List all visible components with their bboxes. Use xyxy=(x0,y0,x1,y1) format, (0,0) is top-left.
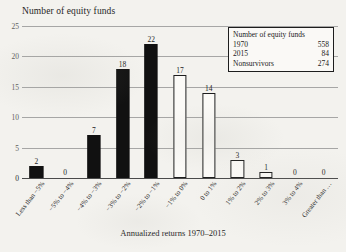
bar-value-label: 18 xyxy=(119,60,127,69)
x-axis-label: −2% to −1% xyxy=(133,180,161,213)
bar-slot: 14 xyxy=(194,26,223,178)
x-axis-title: Annualized returns 1970–2015 xyxy=(0,228,346,238)
bar-slot: 18 xyxy=(108,26,137,178)
bar[interactable]: 22 xyxy=(145,44,158,178)
bar-value-label: 3 xyxy=(236,151,240,160)
legend-row-value: 558 xyxy=(318,40,329,49)
y-tick-label: 25 xyxy=(12,22,20,31)
bar-slot: 22 xyxy=(137,26,166,178)
bar-slot: 17 xyxy=(166,26,195,178)
bar-value-label: 0 xyxy=(63,168,67,177)
x-axis-label: 1% to 2% xyxy=(224,180,247,207)
x-axis-label: −5% to −4% xyxy=(47,180,75,213)
legend-row: 1970 558 xyxy=(233,40,329,49)
bar-slot: 7 xyxy=(79,26,108,178)
bar[interactable]: 3 xyxy=(231,160,244,178)
bar[interactable]: 17 xyxy=(173,75,186,178)
y-tick-label: 20 xyxy=(12,52,20,61)
legend-title: Number of equity funds xyxy=(233,30,329,39)
bar-value-label: 7 xyxy=(92,126,96,135)
x-axis-label: 3% to 4% xyxy=(281,180,304,207)
x-axis-category-labels: Less than −5%−5% to −4%−4% to −3%−3% to … xyxy=(22,180,338,226)
bar-value-label: 1 xyxy=(264,163,268,172)
x-axis-label: Less than −5% xyxy=(14,180,46,218)
bar-value-label: 22 xyxy=(148,35,156,44)
legend-row: 2015 84 xyxy=(233,49,329,58)
legend-row-value: 274 xyxy=(318,59,329,68)
legend-box: Number of equity funds 1970 558 2015 84 … xyxy=(228,27,334,72)
bar[interactable]: 14 xyxy=(202,93,215,178)
bar[interactable]: 1 xyxy=(260,172,273,178)
y-tick-label: 10 xyxy=(12,113,20,122)
bar-slot: 2 xyxy=(22,26,51,178)
bar-value-label: 0 xyxy=(322,168,326,177)
bar[interactable]: 2 xyxy=(30,166,43,178)
x-axis-label: −3% to −2% xyxy=(104,180,132,213)
bar-value-label: 0 xyxy=(293,168,297,177)
bar-value-label: 17 xyxy=(176,66,184,75)
bar[interactable]: 7 xyxy=(87,135,100,178)
x-axis-label: 2% to 3% xyxy=(253,180,276,207)
y-tick-label: 15 xyxy=(12,82,20,91)
x-axis-label: Greater than … xyxy=(300,180,333,219)
x-axis-label: 0 to 1% xyxy=(199,180,219,202)
bar-value-label: 14 xyxy=(205,84,213,93)
x-axis-label: −4% to −3% xyxy=(75,180,103,213)
y-tick-label: 0 xyxy=(15,174,19,183)
legend-row: Nonsurvivors 274 xyxy=(233,59,329,68)
bar-chart: Number of equity funds 0510152025 207182… xyxy=(0,0,346,252)
bar-value-label: 2 xyxy=(34,157,38,166)
x-axis-label: −1% to 0% xyxy=(164,180,190,210)
legend-row-label: 2015 xyxy=(233,49,248,58)
legend-row-label: Nonsurvivors xyxy=(233,59,274,68)
legend-row-label: 1970 xyxy=(233,40,248,49)
y-tick-label: 5 xyxy=(15,143,19,152)
bar-slot: 0 xyxy=(51,26,80,178)
legend-row-value: 84 xyxy=(322,49,330,58)
y-axis-title: Number of equity funds xyxy=(22,6,115,16)
bar[interactable]: 18 xyxy=(116,69,129,178)
